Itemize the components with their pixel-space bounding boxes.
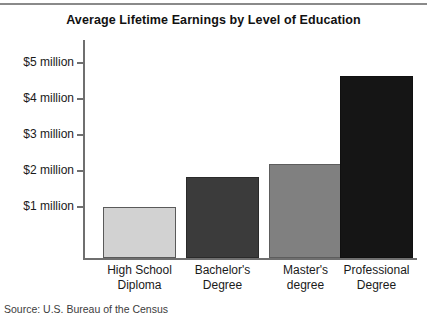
y-tick-label-1: $1 million	[2, 199, 74, 213]
x-category-line-2: Diploma	[93, 278, 186, 293]
y-tick-label-5: $5 million	[2, 55, 74, 69]
chart-figure: Average Lifetime Earnings by Level of Ed…	[0, 0, 427, 316]
y-tick-label-3: $3 million	[2, 127, 74, 141]
x-category-line-1: High School	[93, 263, 186, 278]
x-category-line-2: Degree	[176, 278, 269, 293]
y-tick-mark-1	[77, 206, 84, 208]
y-tick-mark-2	[77, 170, 84, 172]
x-category-label-bachelors-degree: Bachelor's Degree	[176, 263, 269, 293]
plot-area: $5 million $4 million $3 million $2 mill…	[0, 0, 427, 316]
x-category-label-high-school-diploma: High School Diploma	[93, 263, 186, 293]
y-tick-label-2: $2 million	[2, 163, 74, 177]
source-note: Source: U.S. Bureau of the Census	[4, 303, 168, 315]
y-axis-line	[83, 40, 85, 259]
bar-masters-degree	[269, 164, 342, 258]
x-category-line-2: Degree	[330, 278, 423, 293]
x-category-line-1: Bachelor's	[176, 263, 269, 278]
y-tick-mark-5	[77, 62, 84, 64]
x-category-label-professional-degree: Professional Degree	[330, 263, 423, 293]
bar-high-school-diploma	[103, 207, 176, 258]
bar-professional-degree	[340, 76, 413, 258]
x-axis-line	[83, 258, 417, 260]
x-category-line-1: Professional	[330, 263, 423, 278]
bar-bachelors-degree	[186, 177, 259, 258]
y-tick-mark-4	[77, 98, 84, 100]
y-tick-label-4: $4 million	[2, 91, 74, 105]
y-tick-mark-3	[77, 134, 84, 136]
